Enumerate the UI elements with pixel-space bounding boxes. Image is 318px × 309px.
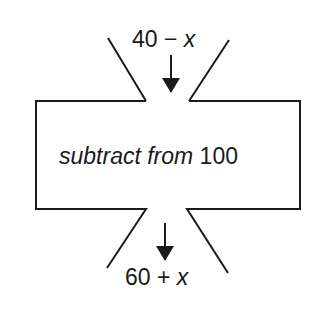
input-arrow-icon bbox=[162, 55, 180, 93]
output-arrow-icon bbox=[156, 223, 174, 261]
output-label: 60 + x bbox=[125, 264, 188, 291]
input-variable: x bbox=[184, 26, 196, 52]
output-variable: x bbox=[177, 264, 189, 290]
input-label: 40 − x bbox=[132, 26, 195, 53]
machine-operation: subtract from bbox=[59, 143, 193, 169]
input-value: 40 − bbox=[132, 26, 177, 52]
machine-label: subtract from 100 bbox=[59, 143, 238, 170]
output-value: 60 + bbox=[125, 264, 170, 290]
machine-operand: 100 bbox=[200, 143, 238, 169]
